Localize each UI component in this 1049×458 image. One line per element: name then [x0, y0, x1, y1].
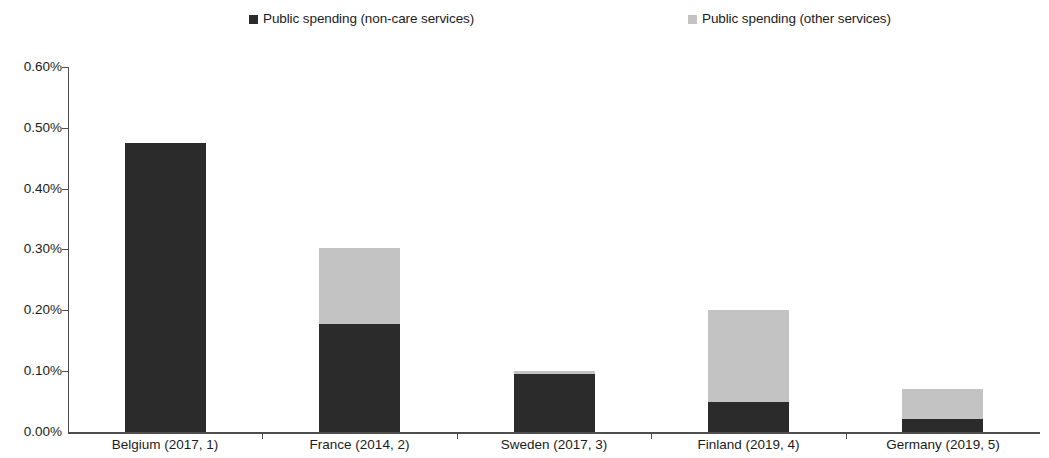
bar-segment-france-series-1[interactable]: [319, 248, 400, 323]
y-tick-label-060: 0.60%: [0, 60, 62, 74]
bar-segment-finland-series-0[interactable]: [708, 402, 789, 432]
plot-area: [68, 67, 1040, 432]
y-axis-tick-060: [62, 67, 68, 68]
bar-germany[interactable]: [902, 389, 983, 432]
chart-legend: Public spending (non-care services) Publ…: [0, 11, 1049, 35]
bar-france[interactable]: [319, 248, 400, 432]
y-axis-tick-040: [62, 189, 68, 190]
bar-segment-sweden-series-1[interactable]: [514, 371, 595, 374]
x-axis-labels: Belgium (2017, 1) France (2014, 2) Swede…: [68, 436, 1040, 456]
legend-label-other-services: Public spending (other services): [702, 11, 891, 27]
y-tick-label-040: 0.40%: [0, 182, 62, 196]
x-axis-label-finland: Finland (2019, 4): [651, 436, 846, 453]
bar-segment-sweden-series-0[interactable]: [514, 374, 595, 432]
bar-segment-germany-series-1[interactable]: [902, 389, 983, 418]
stacked-bar-chart: Public spending (non-care services) Publ…: [0, 0, 1049, 458]
y-axis-tick-010: [62, 371, 68, 372]
legend-item-other-services[interactable]: Public spending (other services): [688, 11, 891, 27]
legend-swatch-light-icon: [688, 15, 697, 24]
y-axis-labels: 0.60% 0.50% 0.40% 0.30% 0.20% 0.10% 0.00…: [0, 60, 62, 432]
bar-segment-belgium-series-0[interactable]: [125, 143, 206, 432]
legend-label-non-care-services: Public spending (non-care services): [263, 11, 474, 27]
y-axis-tick-020: [62, 310, 68, 311]
bar-segment-finland-series-1[interactable]: [708, 310, 789, 401]
legend-item-non-care-services[interactable]: Public spending (non-care services): [249, 11, 474, 27]
y-tick-label-020: 0.20%: [0, 303, 62, 317]
bar-segment-france-series-0[interactable]: [319, 324, 400, 432]
y-tick-label-010: 0.10%: [0, 364, 62, 378]
x-axis-label-germany: Germany (2019, 5): [846, 436, 1040, 453]
x-axis-line: [68, 432, 1040, 434]
y-axis-tick-050: [62, 128, 68, 129]
y-tick-label-000: 0.00%: [0, 425, 62, 439]
legend-swatch-dark-icon: [249, 15, 258, 24]
bar-finland[interactable]: [708, 310, 789, 432]
bar-sweden[interactable]: [514, 371, 595, 432]
y-axis-tick-030: [62, 249, 68, 250]
bar-belgium[interactable]: [125, 143, 206, 432]
y-tick-label-050: 0.50%: [0, 121, 62, 135]
y-tick-label-030: 0.30%: [0, 242, 62, 256]
x-axis-label-sweden: Sweden (2017, 3): [457, 436, 651, 453]
x-axis-label-france: France (2014, 2): [262, 436, 457, 453]
bar-segment-germany-series-0[interactable]: [902, 419, 983, 432]
x-axis-label-belgium: Belgium (2017, 1): [68, 436, 262, 453]
y-axis-line: [68, 67, 69, 432]
